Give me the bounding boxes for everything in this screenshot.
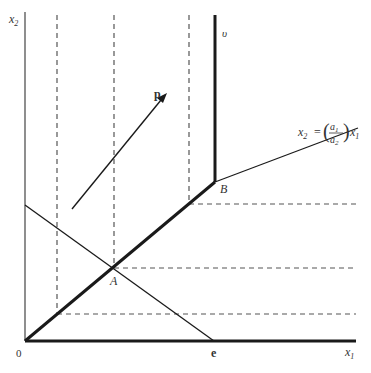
point-B-label: B (220, 182, 228, 196)
equation-paren-right: ) (343, 120, 350, 143)
x-axis-label: x1 (344, 345, 354, 361)
equation-lhs: x2 (297, 125, 307, 141)
vertical-dashed-guides (57, 15, 189, 314)
upsilon-label: υ (222, 27, 227, 39)
equation-paren-left: ( (323, 120, 330, 143)
y-axis-label: x2 (8, 12, 18, 28)
price-vector (72, 93, 167, 209)
endowment-label: e (211, 346, 217, 360)
ray-line (215, 128, 358, 182)
point-A-label: A (109, 274, 118, 288)
ray-equation: x2 = ( a1 a2 ) x1 (297, 120, 359, 147)
budget-line (25, 205, 214, 341)
horizontal-dashed-guides (57, 204, 356, 314)
expansion-path-diagonal (25, 182, 215, 341)
equation-equals: = (314, 125, 321, 139)
price-vector-shaft (72, 100, 161, 209)
equation-numerator: a1 (330, 121, 339, 134)
leontief-edgeworth-diagram: x2 x1 0 e A B p υ x2 = ( a1 a2 ) x1 (0, 0, 371, 373)
origin-label: 0 (16, 347, 22, 359)
equation-rhs: x1 (349, 125, 359, 141)
price-vector-label: p (154, 87, 161, 101)
